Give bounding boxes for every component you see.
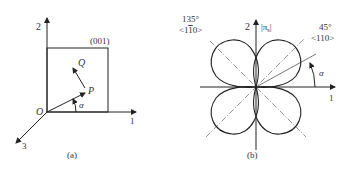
quantity-label: |πs| <box>261 22 272 33</box>
point-p-label: P <box>87 85 94 96</box>
axis-2-label: 2 <box>36 21 41 32</box>
axis-2-label: 2 <box>245 21 250 32</box>
axis-3-label: 3 <box>22 141 27 151</box>
angle-arc <box>73 99 76 112</box>
figure: 2 (001) 1 3 O P Q α (a) 2 |πs| 135° <110… <box>0 0 347 170</box>
axis-1-label: 1 <box>130 116 135 126</box>
caption-b: (b) <box>247 150 258 160</box>
vector-pq <box>73 68 85 88</box>
angle-label: α <box>319 68 324 78</box>
dir-135-angle: 135° <box>182 14 200 24</box>
axis-1-label: 1 <box>329 93 334 103</box>
dir-45-index: <110> <box>311 33 334 43</box>
dir-135-line <box>210 41 306 137</box>
angle-arc <box>310 63 315 87</box>
panel-a: 2 (001) 1 3 O P Q α (a) <box>16 18 136 160</box>
plane-label: (001) <box>90 36 110 46</box>
origin-label: O <box>36 106 43 117</box>
alpha-line <box>256 54 316 87</box>
dir-45-angle: 45° <box>319 22 332 32</box>
panel-b: 2 |πs| 135° <110> 45° <110> α 1 (b) <box>179 14 335 160</box>
angle-label: α <box>79 100 84 110</box>
dir-45-line <box>206 39 304 137</box>
point-q-label: Q <box>78 57 86 68</box>
caption-a: (a) <box>67 150 77 160</box>
dir-135-index: <110> <box>179 25 202 35</box>
